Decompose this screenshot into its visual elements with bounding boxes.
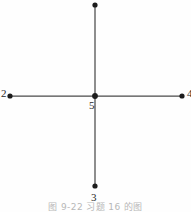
figure-container: 1 2 5 4 3 图 9-22 习题 16 的图 — [0, 0, 191, 212]
figure-caption: 图 9-22 习题 16 的图 — [0, 200, 191, 212]
vertex-right — [179, 93, 184, 98]
vertex-label-right: 4 — [187, 88, 191, 99]
vertex-label-top: 1 — [92, 0, 98, 2]
vertex-top — [92, 2, 97, 7]
vertex-label-left: 2 — [1, 88, 7, 99]
vertex-left — [7, 93, 12, 98]
star-graph-drawing — [0, 0, 191, 212]
vertex-bottom — [92, 183, 97, 188]
vertex-label-center: 5 — [89, 100, 95, 111]
